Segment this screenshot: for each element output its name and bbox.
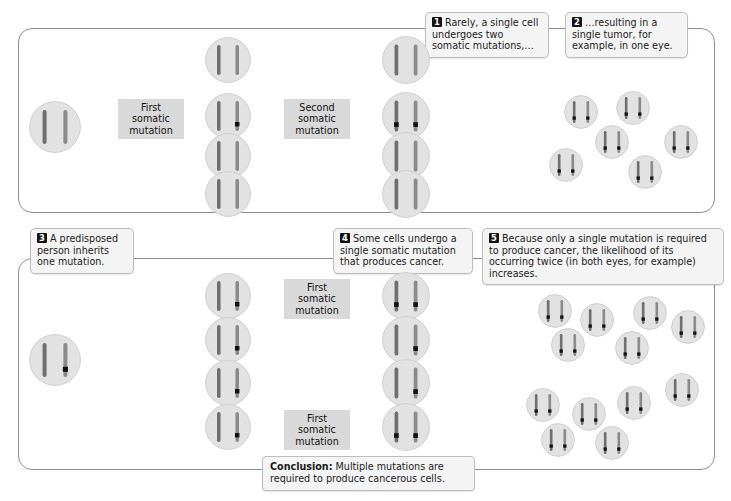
callout-text: Because only a single mutation is requir… [489, 233, 707, 279]
cell-bottom-tumor-a-2 [580, 303, 614, 337]
cell-bottom-tumor-b-6 [595, 426, 629, 460]
cell-bottom-tumor-a-1 [538, 294, 572, 328]
callout-5: 5Because only a single mutation is requi… [482, 228, 724, 285]
callout-number-badge: 5 [489, 233, 499, 243]
cell-top-col3-row4 [382, 170, 430, 218]
conclusion-box: Conclusion: Multiple mutations are requi… [262, 456, 475, 491]
cell-top-tumor-3 [595, 125, 629, 159]
callout-2: 2…resulting in a single tumor, for examp… [565, 12, 688, 58]
cell-top-tumor-4 [664, 125, 698, 159]
callout-text: Some cells undergo a single somatic muta… [340, 233, 457, 267]
callout-number-badge: 2 [572, 17, 582, 27]
cell-bottom-tumor-a-5 [551, 328, 585, 362]
cell-bottom-tumor-b-4 [665, 373, 699, 407]
cell-top-progenitor [29, 101, 81, 153]
cell-bottom-col3-row4 [382, 403, 430, 451]
figure-canvas: First somatic mutation Second somatic mu… [0, 0, 731, 501]
callout-text: …resulting in a single tumor, for exampl… [572, 17, 673, 51]
callout-number-badge: 3 [37, 233, 47, 243]
cell-bottom-tumor-a-6 [615, 331, 649, 365]
process-box-first-somatic-mutation-bottom-row1: First somatic mutation [284, 279, 350, 319]
cell-top-tumor-6 [628, 155, 662, 189]
callout-text: A predisposed person inherits one mutati… [37, 233, 118, 267]
cell-bottom-col2-row4 [205, 404, 251, 450]
cell-top-tumor-5 [549, 148, 583, 182]
process-box-first-somatic-mutation-top: First somatic mutation [118, 99, 184, 139]
cell-bottom-col3-row2 [382, 316, 430, 364]
callout-text: Rarely, a single cell undergoes two soma… [432, 17, 538, 51]
cell-bottom-tumor-b-1 [526, 388, 560, 422]
cell-bottom-tumor-b-5 [541, 423, 575, 457]
cell-bottom-col3-row3 [382, 359, 430, 407]
cell-bottom-col2-row2 [205, 317, 251, 363]
cell-bottom-tumor-a-3 [633, 296, 667, 330]
process-box-first-somatic-mutation-bottom-row4: First somatic mutation [284, 410, 350, 450]
cell-bottom-tumor-a-4 [671, 310, 705, 344]
cell-top-col2-row1 [205, 37, 251, 83]
cell-bottom-col2-row1 [205, 273, 251, 319]
cell-bottom-progenitor [29, 334, 81, 386]
cell-bottom-tumor-b-3 [617, 386, 651, 420]
callout-number-badge: 4 [340, 233, 350, 243]
process-box-second-somatic-mutation-top: Second somatic mutation [284, 99, 350, 139]
callout-1: 1Rarely, a single cell undergoes two som… [425, 12, 549, 58]
cell-top-col2-row4 [205, 171, 251, 217]
callout-3: 3A predisposed person inherits one mutat… [30, 228, 134, 274]
conclusion-label: Conclusion: [270, 461, 333, 472]
cell-bottom-col2-row3 [205, 360, 251, 406]
cell-top-col3-row1 [382, 36, 430, 84]
cell-top-tumor-2 [616, 91, 650, 125]
callout-4: 4Some cells undergo a single somatic mut… [333, 228, 473, 274]
cell-bottom-col3-row1 [382, 272, 430, 320]
cell-top-tumor-1 [564, 95, 598, 129]
callout-number-badge: 1 [432, 17, 442, 27]
